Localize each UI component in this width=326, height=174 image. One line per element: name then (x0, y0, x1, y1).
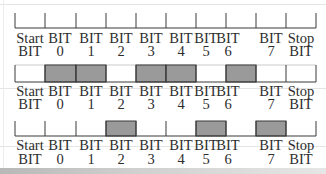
bit-label-top: BIT (45, 138, 75, 152)
bit-label-top: Stop (286, 138, 316, 152)
bit-label-bottom: BIT (15, 152, 45, 166)
bit-label-bottom: 6 (213, 152, 243, 166)
bit-label-top: BIT (256, 138, 286, 152)
bit-label-bottom: 3 (136, 152, 166, 166)
bit-label-bottom: 2 (106, 152, 136, 166)
bit-label-top: BIT (106, 138, 136, 152)
bit-label-top: BIT (136, 138, 166, 152)
bit-label-bottom: 1 (76, 152, 106, 166)
bottom-scroll-bar (0, 168, 326, 174)
bit-label-bottom: 7 (256, 152, 286, 166)
bit-high-cell (196, 121, 226, 136)
bit-label-top: Start (15, 138, 45, 152)
bit-label-top: BIT (213, 138, 243, 152)
bit-high-cell (106, 121, 136, 136)
bit-label-bottom: BIT (286, 152, 316, 166)
bit-label-top: BIT (76, 138, 106, 152)
bit-high-cell (256, 121, 286, 136)
bit-label-bottom: 0 (45, 152, 75, 166)
